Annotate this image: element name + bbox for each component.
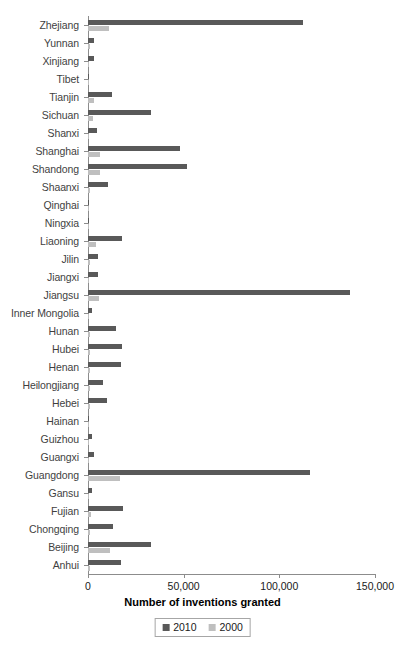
legend-swatch-icon <box>162 624 169 631</box>
y-tick-mark <box>84 241 88 242</box>
y-tick-mark <box>84 223 88 224</box>
y-tick-mark <box>84 403 88 404</box>
y-axis-label: Zhejiang <box>0 16 84 34</box>
bar-2000 <box>88 188 90 193</box>
bar-group <box>88 106 375 124</box>
bar-group <box>88 196 375 214</box>
y-tick-mark <box>84 133 88 134</box>
y-axis-label: Chongqing <box>0 520 84 538</box>
y-axis-label: Hunan <box>0 322 84 340</box>
bar-2000 <box>88 332 90 337</box>
bar-2000 <box>88 350 90 355</box>
y-tick-mark <box>84 475 88 476</box>
y-axis-label: Shaanxi <box>0 178 84 196</box>
y-tick-mark <box>84 547 88 548</box>
y-tick-mark <box>84 151 88 152</box>
bar-2000 <box>88 62 89 67</box>
bar-2000 <box>88 260 90 265</box>
bar-group <box>88 394 375 412</box>
bar-2010 <box>88 434 92 439</box>
x-tick-label: 0 <box>85 580 91 592</box>
bar-group <box>88 142 375 160</box>
bar-2000 <box>88 152 100 157</box>
bar-2000 <box>88 314 89 319</box>
bar-2010 <box>88 56 94 61</box>
y-axis-label: Anhui <box>0 556 84 574</box>
y-tick-mark <box>84 79 88 80</box>
y-tick-mark <box>84 493 88 494</box>
y-tick-mark <box>84 349 88 350</box>
bar-2010 <box>88 146 180 151</box>
y-axis-label: Hubei <box>0 340 84 358</box>
bar-2010 <box>88 236 122 241</box>
bar-2010 <box>88 542 151 547</box>
y-axis-label: Tibet <box>0 70 84 88</box>
bar-group <box>88 412 375 430</box>
bar-group <box>88 538 375 556</box>
bar-2010 <box>88 506 123 511</box>
bar-2010 <box>88 344 122 349</box>
bar-2010 <box>88 290 350 295</box>
bar-2010 <box>88 182 108 187</box>
y-tick-mark <box>84 295 88 296</box>
bar-group <box>88 232 375 250</box>
bar-group <box>88 124 375 142</box>
bar-2000 <box>88 98 94 103</box>
bar-2010 <box>88 452 94 457</box>
y-axis-label: Hebei <box>0 394 84 412</box>
bar-2000 <box>88 296 99 301</box>
bar-2000 <box>88 458 89 463</box>
chart-legend: 20102000 <box>154 618 251 637</box>
y-axis-category-labels: ZhejiangYunnanXinjiangTibetTianjinSichua… <box>0 16 84 574</box>
y-tick-mark <box>84 187 88 188</box>
y-axis-label: Liaoning <box>0 232 84 250</box>
y-tick-mark <box>84 565 88 566</box>
legend-swatch-icon <box>209 624 216 631</box>
bar-2000 <box>88 116 93 121</box>
y-tick-mark <box>84 331 88 332</box>
bar-2010 <box>88 380 103 385</box>
y-axis-label: Tianjin <box>0 88 84 106</box>
bar-group <box>88 160 375 178</box>
inventions-granted-bar-chart: ZhejiangYunnanXinjiangTibetTianjinSichua… <box>0 0 405 650</box>
y-tick-mark <box>84 385 88 386</box>
legend-item-2000: 2000 <box>209 621 243 633</box>
bar-2010 <box>88 488 92 493</box>
y-tick-mark <box>84 529 88 530</box>
legend-item-2010: 2010 <box>162 621 196 633</box>
y-axis-label: Ningxia <box>0 214 84 232</box>
y-tick-mark <box>84 439 88 440</box>
bar-2010 <box>88 74 89 79</box>
bar-rows <box>88 16 375 574</box>
y-axis-label: Henan <box>0 358 84 376</box>
bar-group <box>88 70 375 88</box>
bar-group <box>88 286 375 304</box>
bar-group <box>88 16 375 34</box>
y-tick-mark <box>84 457 88 458</box>
bar-2010 <box>88 272 98 277</box>
bar-2000 <box>88 404 90 409</box>
y-axis-label: Jilin <box>0 250 84 268</box>
y-axis-label: Guangxi <box>0 448 84 466</box>
bar-2010 <box>88 416 89 421</box>
y-axis-label: Shandong <box>0 160 84 178</box>
bar-group <box>88 322 375 340</box>
y-tick-mark <box>84 205 88 206</box>
bar-2000 <box>88 44 90 49</box>
x-tick-label: 150,000 <box>356 580 394 592</box>
y-tick-mark <box>84 511 88 512</box>
y-axis-label: Heilongjiang <box>0 376 84 394</box>
bar-2010 <box>88 308 92 313</box>
bar-2010 <box>88 254 98 259</box>
y-axis-label: Guizhou <box>0 430 84 448</box>
y-axis-label: Shanghai <box>0 142 84 160</box>
bar-group <box>88 34 375 52</box>
y-tick-mark <box>84 115 88 116</box>
y-axis-label: Jiangsu <box>0 286 84 304</box>
bar-2010 <box>88 92 112 97</box>
y-tick-mark <box>84 313 88 314</box>
bar-2000 <box>88 476 120 481</box>
bar-2000 <box>88 278 89 283</box>
bar-2010 <box>88 560 121 565</box>
bar-2000 <box>88 386 90 391</box>
